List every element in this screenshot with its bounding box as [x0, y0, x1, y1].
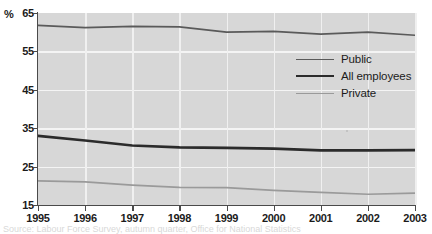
series-line-all-employees [38, 136, 415, 151]
y-tick-label: 45 [4, 84, 34, 96]
x-tick-mark [85, 205, 86, 211]
x-tick-mark [321, 205, 322, 211]
y-tick-label: 35 [4, 122, 34, 134]
x-tick-label: 1997 [109, 212, 155, 224]
x-tick-label: 1998 [156, 212, 202, 224]
x-tick-mark [368, 205, 369, 211]
x-tick-mark [415, 205, 416, 211]
y-tick-label: 15 [4, 199, 34, 211]
series-line-public [38, 25, 415, 35]
x-tick-label: 2002 [345, 212, 391, 224]
x-tick-label: 1999 [204, 212, 250, 224]
x-tick-label: 2003 [392, 212, 432, 224]
legend-label-public: Public [341, 53, 372, 65]
y-tick-label: 55 [4, 45, 34, 57]
legend-item-private: Private [296, 86, 411, 100]
gridline-vertical [415, 13, 417, 205]
legend-line-swatch-all-employees [296, 75, 334, 77]
legend-label-private: Private [341, 87, 376, 99]
legend-label-all-employees: All employees [341, 70, 411, 82]
series-line-private [38, 181, 415, 194]
chart-figure: % 655545352515 1995199619971998199920002… [0, 0, 432, 234]
legend-line-swatch-public [296, 59, 334, 60]
legend-item-all-employees: All employees [296, 69, 411, 83]
x-tick-mark [179, 205, 180, 211]
x-tick-mark [132, 205, 133, 211]
source-caption: Source: Labour Force Survey, autumn quar… [3, 224, 432, 234]
x-tick-mark [274, 205, 275, 211]
x-tick-label: 1995 [15, 212, 61, 224]
x-tick-label: 2001 [298, 212, 344, 224]
legend-item-public: Public [296, 52, 411, 66]
data-series-lines [38, 13, 415, 205]
x-tick-mark [38, 205, 39, 211]
x-tick-label: 2000 [251, 212, 297, 224]
y-tick-label: 65 [4, 7, 34, 19]
y-axis-tick-labels: 655545352515 [0, 0, 34, 234]
x-tick-label: 1996 [62, 212, 108, 224]
y-tick-label: 25 [4, 161, 34, 173]
plot-area [38, 13, 415, 205]
legend-line-swatch-private [296, 93, 334, 94]
chart-legend: Public All employees Private [296, 52, 411, 100]
x-tick-mark [227, 205, 228, 211]
